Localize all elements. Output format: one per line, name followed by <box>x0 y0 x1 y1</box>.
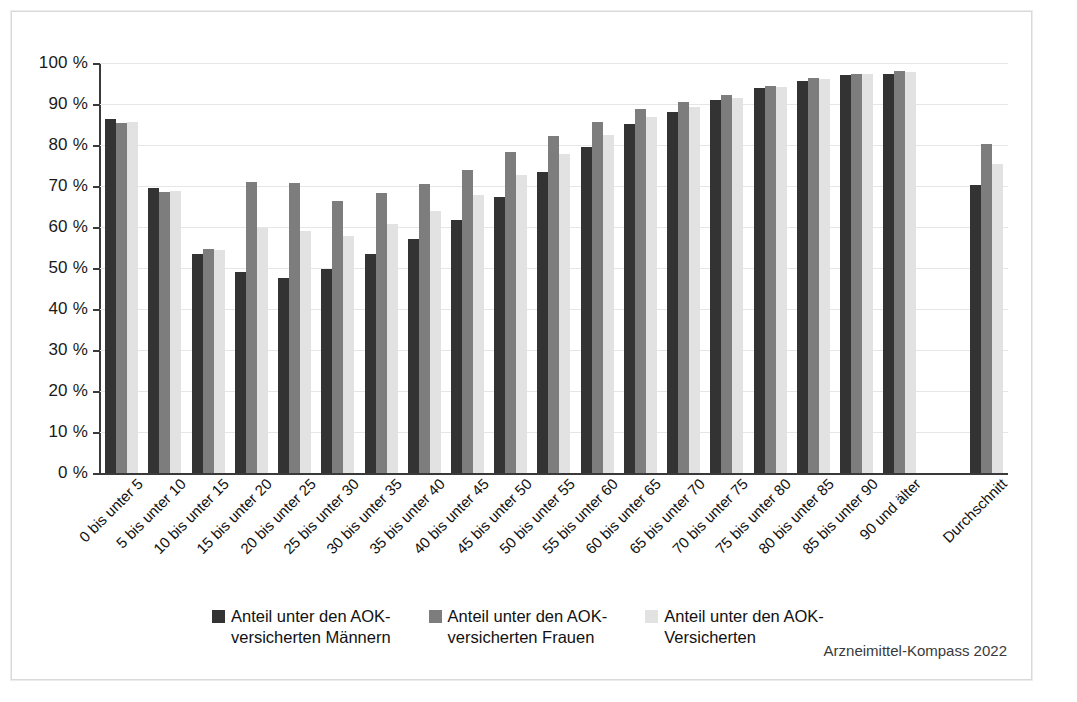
bar-series-1[interactable] <box>808 78 819 473</box>
bar-group[interactable] <box>316 63 359 473</box>
x-axis-tick-label: 15 bis unter 20 <box>193 475 275 557</box>
bar-group[interactable] <box>273 63 316 473</box>
bar-series-2[interactable] <box>689 107 700 473</box>
bar-series-0[interactable] <box>667 112 678 473</box>
bar-group[interactable] <box>186 63 229 473</box>
bar-series-2[interactable] <box>300 231 311 473</box>
bar-series-0[interactable] <box>581 147 592 473</box>
bar-group[interactable] <box>403 63 446 473</box>
bar-series-2[interactable] <box>992 164 1003 473</box>
bar-group[interactable] <box>705 63 748 473</box>
bar-series-1[interactable] <box>462 170 473 473</box>
bar-series-2[interactable] <box>646 117 657 473</box>
bar-series-0[interactable] <box>537 172 548 473</box>
bar-series-0[interactable] <box>148 188 159 473</box>
bar-series-2[interactable] <box>343 236 354 473</box>
bar-series-2[interactable] <box>732 98 743 473</box>
x-axis-tick-label: 75 bis unter 80 <box>712 475 794 557</box>
bar-series-0[interactable] <box>883 74 894 473</box>
bar-group[interactable] <box>965 63 1008 473</box>
bar-series-0[interactable] <box>754 88 765 473</box>
bar-group[interactable] <box>792 63 835 473</box>
y-axis-tick-label: 70 % <box>48 176 88 196</box>
bar-series-1[interactable] <box>159 192 170 473</box>
bar-series-2[interactable] <box>603 135 614 473</box>
bar-series-0[interactable] <box>235 272 246 473</box>
bar-series-1[interactable] <box>592 122 603 473</box>
bar-group[interactable] <box>576 63 619 473</box>
bar-series-1[interactable] <box>721 95 732 473</box>
bar-series-0[interactable] <box>408 239 419 473</box>
legend-item[interactable]: Anteil unter den AOK- versicherten Männe… <box>212 606 391 648</box>
legend-label: Anteil unter den AOK- Versicherten <box>664 606 824 648</box>
bar-series-2[interactable] <box>862 74 873 473</box>
bar-series-2[interactable] <box>473 195 484 473</box>
bar-series-2[interactable] <box>214 250 225 473</box>
bar-group[interactable] <box>532 63 575 473</box>
bar-series-1[interactable] <box>548 136 559 473</box>
bar-group[interactable] <box>143 63 186 473</box>
bar-series-2[interactable] <box>257 228 268 473</box>
bar-series-0[interactable] <box>321 269 332 473</box>
y-axis-tick-label: 100 % <box>39 53 88 73</box>
legend-label: Anteil unter den AOK- versicherten Männe… <box>231 606 391 648</box>
x-axis-tick-label: 30 bis unter 35 <box>323 475 405 557</box>
legend-label: Anteil unter den AOK- versicherten Fraue… <box>448 606 608 648</box>
bar-series-0[interactable] <box>970 185 981 473</box>
x-axis-tick-label: 40 bis unter 45 <box>409 475 491 557</box>
bar-series-1[interactable] <box>246 182 257 473</box>
bar-series-1[interactable] <box>419 184 430 473</box>
bar-series-0[interactable] <box>840 75 851 473</box>
bar-series-0[interactable] <box>192 254 203 473</box>
bar-series-0[interactable] <box>278 278 289 473</box>
bar-group[interactable] <box>749 63 792 473</box>
legend-item[interactable]: Anteil unter den AOK- Versicherten <box>645 606 824 648</box>
x-axis-tick-label: 45 bis unter 50 <box>453 475 535 557</box>
bar-series-1[interactable] <box>981 144 992 473</box>
bar-series-1[interactable] <box>765 86 776 473</box>
bar-group[interactable] <box>446 63 489 473</box>
bar-group[interactable] <box>662 63 705 473</box>
bar-group[interactable] <box>619 63 662 473</box>
bar-series-2[interactable] <box>516 175 527 473</box>
bar-group[interactable] <box>100 63 143 473</box>
bar-series-2[interactable] <box>905 72 916 473</box>
bar-group[interactable] <box>489 63 532 473</box>
x-axis-tick-label: 35 bis unter 40 <box>366 475 448 557</box>
bar-series-1[interactable] <box>635 109 646 473</box>
bar-series-0[interactable] <box>710 100 721 473</box>
bar-series-0[interactable] <box>797 81 808 473</box>
bar-group[interactable] <box>922 63 965 473</box>
bar-group[interactable] <box>835 63 878 473</box>
bar-series-2[interactable] <box>776 87 787 473</box>
bar-series-2[interactable] <box>559 154 570 473</box>
legend-item[interactable]: Anteil unter den AOK- versicherten Fraue… <box>429 606 608 648</box>
bar-series-1[interactable] <box>376 193 387 473</box>
bar-series-1[interactable] <box>289 183 300 473</box>
bar-series-1[interactable] <box>332 201 343 473</box>
bar-series-2[interactable] <box>819 79 830 473</box>
y-tick-90 <box>93 104 100 106</box>
bar-series-1[interactable] <box>116 123 127 473</box>
x-axis-tick-label: 10 bis unter 15 <box>150 475 232 557</box>
bar-series-1[interactable] <box>851 74 862 473</box>
bar-series-0[interactable] <box>494 197 505 473</box>
bar-series-1[interactable] <box>678 102 689 473</box>
bar-series-2[interactable] <box>127 122 138 473</box>
bar-series-2[interactable] <box>387 224 398 473</box>
bar-series-2[interactable] <box>430 211 441 473</box>
bar-group[interactable] <box>359 63 402 473</box>
bar-group[interactable] <box>878 63 921 473</box>
y-tick-100 <box>93 63 100 65</box>
bar-series-0[interactable] <box>105 119 116 473</box>
bar-series-0[interactable] <box>451 220 462 473</box>
bar-series-1[interactable] <box>894 71 905 473</box>
bar-series-1[interactable] <box>203 249 214 473</box>
legend-swatch-icon <box>429 610 442 623</box>
bar-series-2[interactable] <box>170 191 181 473</box>
bar-group[interactable] <box>230 63 273 473</box>
bar-series-1[interactable] <box>505 152 516 473</box>
y-tick-40 <box>93 309 100 311</box>
bar-series-0[interactable] <box>365 254 376 473</box>
bar-series-0[interactable] <box>624 124 635 473</box>
